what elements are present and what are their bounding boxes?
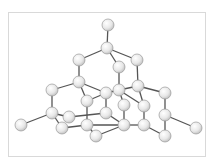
atom [81,95,93,107]
atom [63,111,75,123]
atom [118,119,130,131]
atom [138,119,150,131]
atom [56,122,68,134]
atoms-layer [15,19,202,142]
atom [101,42,113,54]
atom [90,130,102,142]
atom [138,100,150,112]
atom [102,19,114,31]
atom [159,109,171,121]
atom [46,84,58,96]
atom [118,99,130,111]
atom [159,87,171,99]
atom [73,54,85,66]
atom [113,61,125,73]
atom [113,84,125,96]
atom [131,54,143,66]
atom [100,87,112,99]
atom [73,76,85,88]
atom [190,122,202,134]
molecule-diagram [0,0,216,164]
atom [46,107,58,119]
atom [15,119,27,131]
atom [132,80,144,92]
bonds-layer [21,25,196,136]
atom [81,119,93,131]
atom [159,130,171,142]
atom [100,107,112,119]
